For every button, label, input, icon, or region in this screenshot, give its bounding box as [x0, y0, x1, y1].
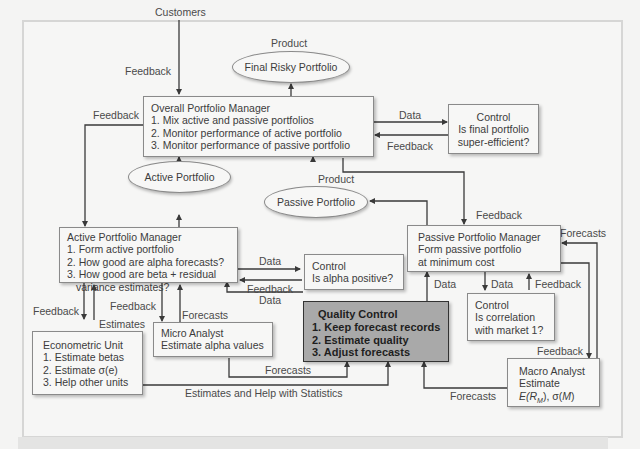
node-item: 1. Keep forecast records [312, 321, 441, 334]
edge-label-forecasts-macro-qc: Forecasts [450, 390, 496, 402]
node-passive-portfolio: Passive Portfolio [264, 186, 368, 218]
node-title: Control [312, 260, 396, 272]
node-item: 1. Mix active and passive portfolios [151, 114, 366, 126]
node-item: 3. Monitor performance of passive portfo… [151, 139, 366, 151]
node-label: Passive Portfolio [277, 196, 355, 208]
node-active-portfolio: Active Portfolio [128, 161, 231, 193]
edge-label-forecasts-micro: Forecasts [182, 309, 228, 321]
node-item: 3. Help other units [43, 376, 135, 388]
edge-label-forecasts-passive-pm: Forecasts [560, 227, 606, 239]
node-line: with market 1? [475, 324, 547, 336]
node-control-alpha: Control Is alpha positive? [304, 254, 404, 290]
node-line: at minimum cost [418, 256, 553, 268]
macro-formula: E(RM), σ(M) [519, 390, 592, 408]
node-line: super-efficient? [456, 136, 531, 148]
node-item: 2. Estimate quality [312, 334, 441, 347]
customers-label: Customers [155, 6, 206, 18]
edge-label-feedback-correlation-passive: Feedback [535, 278, 581, 290]
node-item: 1. Estimate betas [43, 351, 135, 363]
edge-label-feedback-macro: Feedback [537, 345, 583, 357]
edge-label-data-overall-control: Data [399, 109, 421, 121]
node-label: Final Risky Portfolio [245, 61, 338, 73]
formula-part: ) [571, 390, 575, 402]
node-title: Active Portfolio Manager [67, 231, 230, 243]
node-title: Micro Analyst [161, 327, 265, 339]
node-econometric-unit: Econometric Unit 1. Estimate betas 2. Es… [32, 331, 143, 395]
edge-label-feedback-passive-pm: Feedback [476, 209, 522, 221]
node-item: 3. How good are beta + residual [67, 268, 230, 280]
node-item: 1. Form active portfolio [67, 243, 230, 255]
edge-label-data-passive-correlation: Data [491, 278, 513, 290]
node-final-risky-portfolio: Final Risky Portfolio [232, 51, 350, 83]
node-control-correlation: Control Is correlation with market 1? [467, 293, 555, 341]
node-line: Estimate alpha values [161, 339, 265, 351]
node-micro-analyst: Micro Analyst Estimate alpha values [153, 322, 273, 357]
formula-part: ), σ( [543, 390, 562, 402]
node-title: Overall Portfolio Manager [151, 102, 366, 114]
node-line: Is correlation [475, 311, 547, 323]
node-item: variance estimates? [67, 281, 230, 293]
formula-part: M [562, 390, 571, 402]
node-title: Passive Portfolio Manager [418, 231, 553, 243]
node-label: Active Portfolio [144, 171, 214, 183]
node-overall-portfolio-manager: Overall Portfolio Manager 1. Mix active … [143, 96, 374, 157]
node-macro-analyst: Macro Analyst Estimate E(RM), σ(M) [507, 358, 600, 407]
edge-label-data-active-control: Data [259, 255, 281, 267]
edge-label-estimates-econometric: Estimates [99, 318, 145, 330]
node-item: 2. How good are alpha forecasts? [67, 256, 230, 268]
edge-label-feedback-overall-left: Feedback [93, 109, 139, 121]
edge-label-data-qc-passive: Data [434, 278, 456, 290]
node-line: Is alpha positive? [312, 272, 396, 284]
edge-label-feedback-econometric: Feedback [33, 305, 79, 317]
node-passive-portfolio-manager: Passive Portfolio Manager Form passive p… [407, 225, 561, 272]
edge-label-product-passive: Product [318, 173, 354, 185]
edge-label-feedback-customers: Feedback [125, 65, 171, 77]
node-item: 2. Estimate σ(e) [43, 364, 135, 376]
node-item: 3. Adjust forecasts [312, 346, 441, 359]
node-title: Control [456, 111, 531, 123]
edge-label-feedback-control-overall: Feedback [387, 140, 433, 152]
node-title: Control [475, 299, 547, 311]
node-title: Econometric Unit [43, 339, 135, 351]
node-line: Form passive portfolio [418, 243, 553, 255]
edge-label-forecasts-micro-qc: Forecasts [265, 364, 311, 376]
node-control-super-efficient: Control Is final portfolio super-efficie… [448, 104, 539, 154]
node-active-portfolio-manager: Active Portfolio Manager 1. Form active … [59, 227, 238, 283]
edge-label-estimates-help-stats: Estimates and Help with Statistics [185, 387, 343, 399]
formula-part: E(R [519, 390, 537, 402]
edge-label-product-final: Product [271, 37, 307, 49]
node-item: 2. Monitor performance of active portfol… [151, 127, 366, 139]
node-line: Estimate [519, 377, 592, 389]
node-quality-control: Quality Control 1. Keep forecast records… [303, 301, 449, 362]
node-line: Is final portfolio [456, 123, 531, 135]
edge-label-data-qc-active: Data [259, 294, 281, 306]
edge-label-feedback-micro: Feedback [110, 300, 156, 312]
node-title: Quality Control [312, 308, 441, 321]
node-title: Macro Analyst [519, 365, 592, 377]
